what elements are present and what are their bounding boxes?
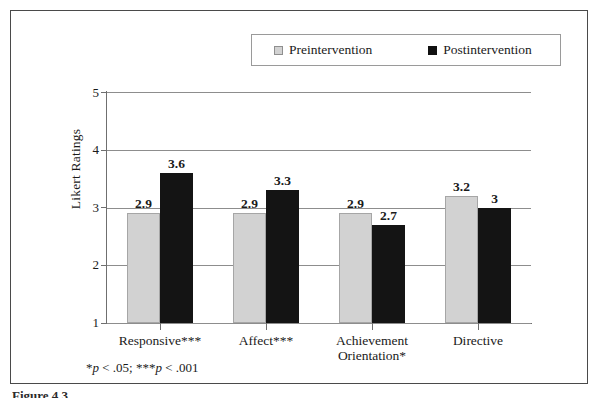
y-tick-label-5: 5 xyxy=(83,86,99,99)
chart-legend: Preintervention Postintervention xyxy=(251,34,561,66)
bar-pre-0[interactable] xyxy=(127,213,160,323)
gridline-1 xyxy=(107,323,531,324)
bar-value-label-post-0: 3.6 xyxy=(154,157,199,171)
y-axis-title: Likert Ratings xyxy=(68,99,84,239)
y-tick-label-1: 1 xyxy=(83,316,99,329)
x-category-label-line: Responsive*** xyxy=(99,333,221,348)
bar-post-3[interactable] xyxy=(478,208,511,324)
gridline-5 xyxy=(107,92,531,93)
x-category-label-line: Achievement xyxy=(311,333,433,348)
bar-pre-3[interactable] xyxy=(445,196,478,323)
legend-entry-postintervention: Postintervention xyxy=(428,43,532,57)
bar-value-label-post-2: 2.7 xyxy=(366,209,411,223)
y-tick-label-4: 4 xyxy=(83,143,99,156)
y-tick-label-2: 2 xyxy=(83,258,99,271)
bar-post-2[interactable] xyxy=(372,225,405,323)
x-tick-2 xyxy=(372,323,373,330)
x-category-label-line: Orientation* xyxy=(311,348,433,363)
figure-frame: Preintervention Postintervention Likert … xyxy=(10,10,588,384)
x-category-label-line: Directive xyxy=(417,333,539,348)
x-category-label-0: Responsive*** xyxy=(99,333,221,348)
significance-footnote: *p < .05; ***p < .001 xyxy=(86,360,199,376)
x-category-label-2: AchievementOrientation* xyxy=(311,333,433,363)
legend-label-preintervention: Preintervention xyxy=(289,43,372,57)
x-category-label-1: Affect*** xyxy=(205,333,327,348)
y-tick-label-3: 3 xyxy=(83,201,99,214)
x-tick-0 xyxy=(160,323,161,330)
legend-swatch-postintervention-icon xyxy=(428,46,437,55)
figure-caption-partial: Figure 4.3 xyxy=(12,389,432,398)
bar-pre-2[interactable] xyxy=(339,213,372,323)
bar-post-0[interactable] xyxy=(160,173,193,323)
x-category-label-line: Affect*** xyxy=(205,333,327,348)
bar-value-label-post-3: 3 xyxy=(472,192,517,206)
bar-post-1[interactable] xyxy=(266,190,299,323)
legend-entry-preintervention: Preintervention xyxy=(274,43,372,57)
bar-pre-1[interactable] xyxy=(233,213,266,323)
x-category-label-3: Directive xyxy=(417,333,539,348)
gridline-4 xyxy=(107,150,531,151)
x-tick-1 xyxy=(266,323,267,330)
legend-label-postintervention: Postintervention xyxy=(443,43,532,57)
footnote-text: *p < .05; ***p < .001 xyxy=(86,360,199,375)
bar-value-label-post-1: 3.3 xyxy=(260,174,305,188)
plot-area: 2.93.62.93.32.92.73.23 xyxy=(107,92,531,323)
legend-swatch-preintervention-icon xyxy=(274,46,283,55)
x-tick-3 xyxy=(478,323,479,330)
